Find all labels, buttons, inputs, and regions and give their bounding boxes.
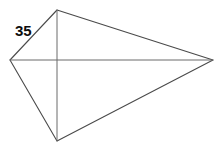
side-length-label-35: 35 <box>15 23 31 38</box>
kite-diagram-svg <box>0 0 221 149</box>
geometry-figure: 35 <box>0 0 221 149</box>
kite-outline <box>10 10 213 141</box>
